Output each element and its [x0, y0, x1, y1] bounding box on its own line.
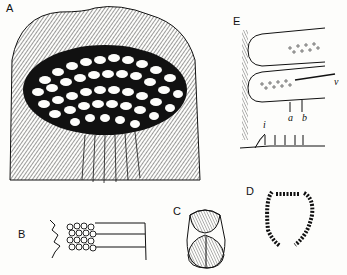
annotation-b: b [302, 112, 307, 123]
panel-e-drawing [240, 28, 335, 148]
plate-drawing [0, 0, 347, 275]
panel-label-c: C [173, 205, 181, 217]
panel-label-e: E [233, 15, 240, 27]
annotation-i: i [263, 119, 266, 130]
panel-b-drawing [50, 220, 146, 260]
panel-label-d: D [246, 185, 254, 197]
panel-d-drawing [267, 192, 312, 246]
panel-label-b: B [18, 228, 25, 240]
panel-c-drawing [187, 210, 225, 268]
annotation-v: v [334, 76, 338, 87]
illustration-plate: A B C D E a b i v [0, 0, 347, 275]
panel-label-a: A [6, 2, 13, 14]
panel-a-drawing [10, 7, 200, 183]
annotation-a: a [288, 112, 293, 123]
